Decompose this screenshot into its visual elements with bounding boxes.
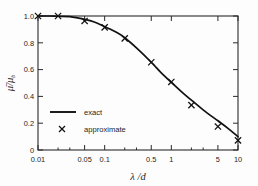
y-axis-ticks bbox=[38, 16, 238, 150]
x-tick-label: 0.05 bbox=[77, 155, 91, 164]
x-axis-label: λ /d bbox=[129, 171, 146, 182]
legend-label-approximate: approximate bbox=[84, 125, 126, 134]
y-axis-tick-labels: 00.20.40.60.81.0 bbox=[24, 12, 34, 155]
chart-legend: exact approximate bbox=[50, 108, 126, 134]
legend-swatch-approximate bbox=[59, 126, 65, 132]
y-tick-label: 0.4 bbox=[24, 92, 34, 101]
x-tick-label: 0.5 bbox=[146, 155, 156, 164]
x-tick-label: 0.1 bbox=[100, 155, 110, 164]
data-point-marker bbox=[188, 102, 194, 108]
data-point-marker bbox=[215, 123, 221, 129]
y-axis-label: μ̄/μb bbox=[4, 75, 16, 92]
plot-frame bbox=[38, 16, 238, 150]
figure-container: 0.010.050.10.51510 00.20.40.60.81.0 λ /d… bbox=[0, 0, 258, 186]
data-point-marker bbox=[148, 59, 154, 65]
data-point-marker bbox=[168, 79, 174, 85]
x-tick-label: 0.01 bbox=[31, 155, 45, 164]
x-tick-label: 10 bbox=[234, 155, 242, 164]
x-tick-label: 1 bbox=[169, 155, 173, 164]
y-tick-label: 1.0 bbox=[24, 12, 34, 21]
chart-canvas: 0.010.050.10.51510 00.20.40.60.81.0 λ /d… bbox=[0, 0, 258, 186]
y-axis-label-group: μ̄/μb bbox=[4, 75, 16, 92]
y-tick-label: 0.6 bbox=[24, 65, 34, 74]
series-line-exact bbox=[38, 16, 238, 137]
legend-label-exact: exact bbox=[84, 108, 103, 117]
x-axis-ticks bbox=[38, 16, 238, 150]
x-tick-label: 5 bbox=[216, 155, 220, 164]
y-tick-label: 0 bbox=[30, 146, 34, 155]
x-axis-tick-labels: 0.010.050.10.51510 bbox=[31, 155, 242, 164]
series-markers-approximate bbox=[35, 13, 241, 144]
y-tick-label: 0.2 bbox=[24, 119, 34, 128]
y-tick-label: 0.8 bbox=[24, 39, 34, 48]
